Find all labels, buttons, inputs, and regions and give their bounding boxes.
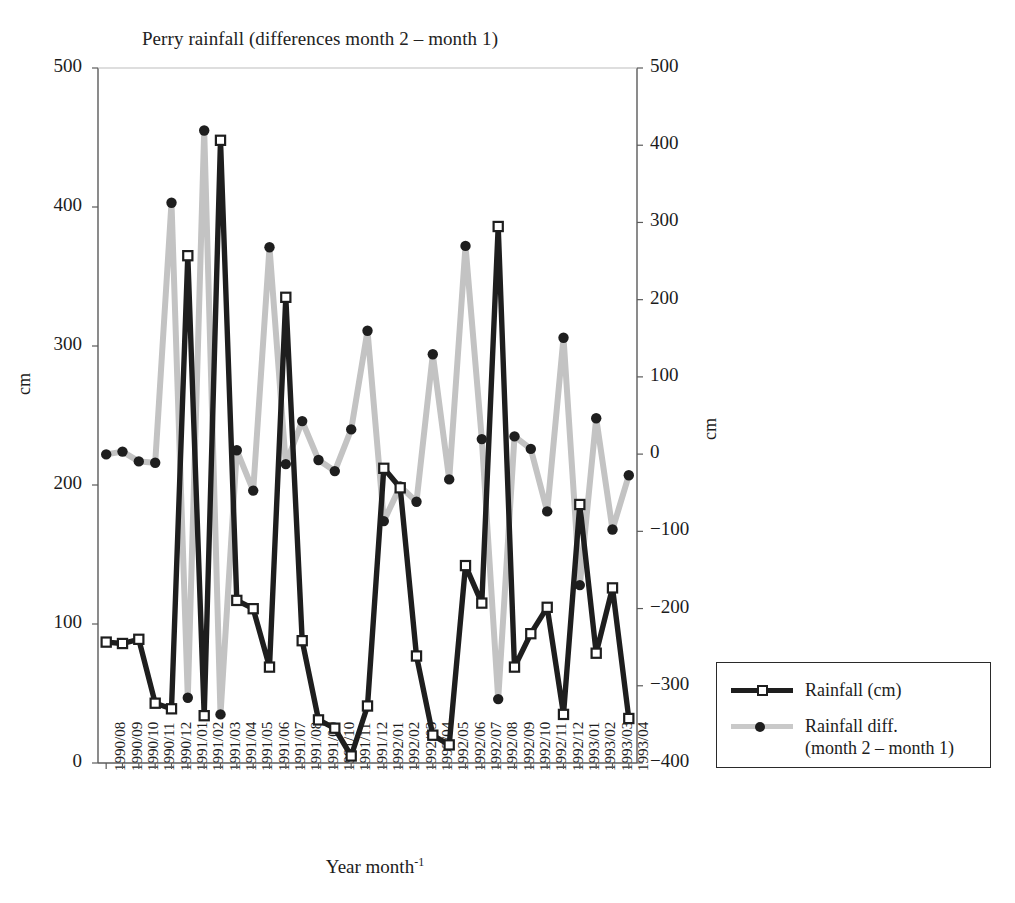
legend-label-rainfall: Rainfall (cm) (805, 679, 901, 701)
legend-label-rainfall-diff: Rainfall diff. (month 2 – month 1) (805, 715, 954, 759)
legend-item-rainfall: Rainfall (cm) (731, 679, 901, 701)
legend-item-rainfall-diff: Rainfall diff. (month 2 – month 1) (731, 715, 954, 759)
legend-swatch-rainfall-diff (731, 718, 793, 734)
legend: Rainfall (cm) Rainfall diff. (month 2 – … (716, 662, 991, 768)
legend-swatch-rainfall (731, 682, 793, 698)
